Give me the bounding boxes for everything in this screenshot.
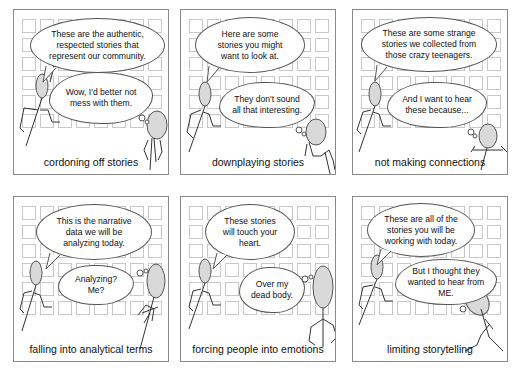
comic-panel-downplaying: Here are some stories you might want to … [180, 9, 336, 175]
thought-text: Analyzing? Me? [69, 274, 123, 296]
speech-text: These are all of the stories you will be… [382, 214, 460, 247]
thought-cloud: Over my dead body. [239, 267, 305, 313]
panel-caption: falling into analytical terms [14, 343, 168, 355]
thought-cloud: Analyzing? Me? [58, 265, 134, 305]
speech-text: These are the authentic, respected stori… [45, 29, 150, 62]
comic-panel-analytical: This is the narrative data we will be an… [13, 196, 169, 362]
panel-caption: limiting storytelling [353, 343, 507, 355]
panel-caption: not making connections [353, 156, 507, 168]
speech-bubble: These stories will touch your heart. [205, 204, 295, 260]
comic-panel-limiting: These are all of the stories you will be… [352, 196, 508, 362]
panel-caption: cordoning off stories [14, 156, 168, 168]
comic-panel-not-connecting: These are some strange stories we collec… [352, 9, 508, 175]
thought-cloud: But I thought they wanted to hear from M… [395, 259, 497, 305]
thought-text: They don't sound all that interesting. [230, 94, 304, 116]
comic-panel-emotions: These stories will touch your heart. Ove… [180, 196, 336, 362]
thought-text: And I want to hear these because... [398, 94, 476, 116]
thought-cloud: And I want to hear these because... [387, 82, 487, 128]
thought-cloud: Wow, I'd better not mess with them. [49, 72, 153, 124]
thought-text: Wow, I'd better not mess with them. [60, 87, 142, 109]
speech-bubble: These are the authentic, respected stori… [30, 18, 165, 73]
speech-text: This is the narrative data we will be an… [51, 216, 137, 249]
speech-text: These stories will touch your heart. [220, 216, 280, 249]
speech-text: These are some strange stories we collec… [376, 28, 482, 61]
panel-caption: forcing people into emotions [181, 343, 335, 355]
thought-cloud: They don't sound all that interesting. [219, 82, 315, 128]
comic-panel-cordoning: These are the authentic, respected stori… [13, 9, 169, 175]
speech-bubble: This is the narrative data we will be an… [36, 204, 152, 260]
speech-bubble: These are some strange stories we collec… [361, 17, 497, 72]
thought-text: Over my dead body. [250, 279, 294, 301]
speech-bubble: Here are some stories you might want to … [195, 17, 305, 73]
panel-caption: downplaying stories [181, 156, 335, 168]
speech-text: Here are some stories you might want to … [210, 29, 290, 62]
thought-text: But I thought they wanted to hear from M… [406, 266, 486, 299]
